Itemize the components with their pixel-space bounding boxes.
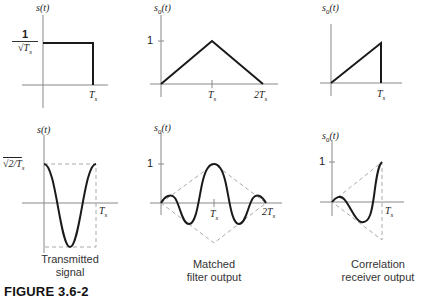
caption-line: signal xyxy=(10,266,130,279)
panel-bottom-right-correlation xyxy=(320,140,404,240)
caption-correlation-receiver-output: Correlation receiver output xyxy=(318,258,428,284)
y-tick-one: 1 xyxy=(147,34,153,46)
ylabel-s0-t: s0(t) xyxy=(154,2,171,16)
caption-transmitted-signal: Transmitted signal xyxy=(10,253,130,279)
dashed-envelope xyxy=(332,162,382,240)
figure-title: FIGURE 3.6-2 xyxy=(4,284,89,299)
ramp-curve xyxy=(331,43,381,83)
frac-numerator: 1 xyxy=(10,28,40,40)
x-tick-ts: Ts xyxy=(210,208,218,222)
panel-top-mid-triangle xyxy=(150,15,278,97)
x-tick-ts: Ts xyxy=(377,88,385,102)
y-tick-one: 1 xyxy=(147,157,153,169)
rect-pulse-curve xyxy=(43,43,93,85)
x-tick-ts: Ts xyxy=(89,89,97,103)
x-tick-2ts: 2Ts xyxy=(254,89,267,103)
panel-bottom-mid-matched xyxy=(150,133,282,243)
x-tick-ts: Ts xyxy=(208,89,216,103)
ylabel-s0-t: s0(t) xyxy=(322,130,339,144)
x-tick-ts: Ts xyxy=(385,205,393,219)
panel-bottom-left-cosine xyxy=(22,135,118,253)
x-tick-ts: Ts xyxy=(99,205,107,219)
caption-line: Matched xyxy=(154,258,274,271)
frac-denominator: √Ts xyxy=(10,42,40,56)
x-tick-2ts: 2Ts xyxy=(262,206,275,220)
ylabel-s-t: s(t) xyxy=(36,2,49,13)
y-tick-one: 1 xyxy=(319,155,325,167)
correlation-curve xyxy=(332,162,382,222)
ylabel-s0-t: s0(t) xyxy=(154,122,171,136)
caption-line: Transmitted xyxy=(10,253,130,266)
y-tick-sqrt-2-over-ts: √2/Ts xyxy=(3,158,25,172)
cosine-curve xyxy=(44,164,96,247)
caption-line: Correlation xyxy=(318,258,428,271)
ylabel-s-t: s(t) xyxy=(37,124,50,135)
caption-matched-filter-output: Matched filter output xyxy=(154,258,274,284)
triangle-curve xyxy=(161,41,263,84)
caption-line: receiver output xyxy=(318,271,428,284)
caption-line: filter output xyxy=(154,271,274,284)
panel-top-right-ramp xyxy=(320,24,402,96)
ylabel-s0-t: s0(t) xyxy=(322,2,339,16)
y-tick-one-over-sqrt-ts: 1 √Ts xyxy=(10,28,40,56)
